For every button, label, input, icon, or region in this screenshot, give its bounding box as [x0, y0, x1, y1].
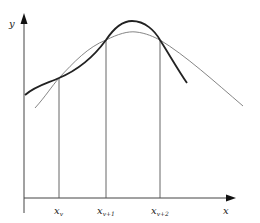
interpolation-diagram: y x xv xv+1 xv+2: [0, 0, 260, 223]
node-label-v2: xv+2: [151, 205, 169, 217]
node-label-v1-sub: v+1: [103, 210, 115, 217]
node-label-v1: xv+1: [97, 205, 115, 217]
node-label-v: xv: [54, 205, 64, 217]
x-axis-label: x: [223, 205, 229, 216]
y-axis-label: y: [8, 18, 15, 29]
node-label-v2-sub: v+2: [157, 210, 169, 217]
x-axis-arrow-icon: [226, 195, 236, 202]
y-axis-arrow-icon: [21, 13, 28, 24]
node-label-v-sub: v: [60, 210, 64, 217]
thin-curve: [35, 32, 243, 108]
